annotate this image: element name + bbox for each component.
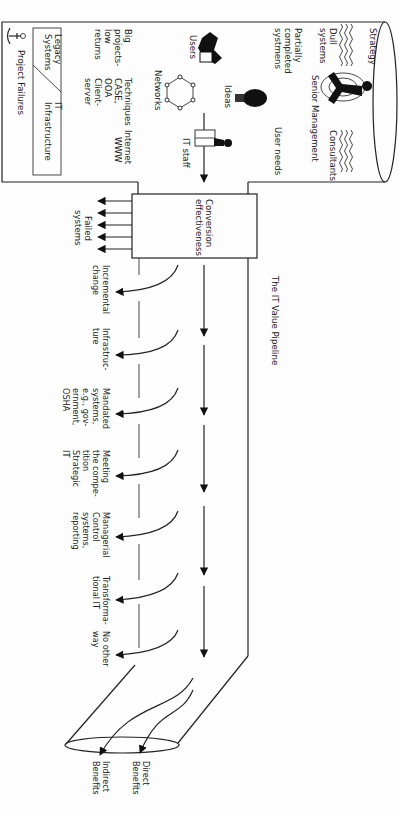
label-dull-systems-2: systems [318,28,328,64]
network-icon [165,75,195,110]
conversion-labels: Conversion effectiveness Failed systems [73,199,214,257]
reservoir-labels: Strategy Dull systems Partially complete… [16,28,378,181]
outlet-3-line-4: IT [61,450,71,458]
outlet-2-line-3: ernment, [71,388,81,425]
pipe-neck [138,182,248,194]
label-project-failures: Project Failures [16,50,26,115]
waves-icon [340,24,353,172]
label-big-projects-1: Big [123,29,133,43]
label-it-infra-2: Infrastructure [43,102,53,161]
label-internet-1: Internet [123,130,133,165]
label-conversion-2: effectiveness [194,199,204,257]
label-senior-management: Senior Management [310,75,320,162]
outlet-3-line-2: tition [81,450,91,471]
outlet-4-line-2: systems, [81,512,91,548]
label-techniques-3: OOA [103,78,113,97]
label-big-projects-4: returns [93,29,103,60]
label-consultants: Consultants [328,130,338,181]
outlet-funnel [65,737,179,753]
outlet-1-line-1: ture [91,328,101,345]
users-icon [198,32,222,64]
label-failed-1: Failed [83,216,93,241]
senior-manager-icon [321,72,372,104]
outlet-arrows [116,265,178,655]
it-staff-icon [195,130,232,147]
label-it-staff: IT staff [181,138,191,169]
label-techniques-4: Client- [93,78,103,106]
label-indirect-2: Benefits [91,761,101,795]
outlet-2-line-0: Mandated [101,388,111,429]
outlet-6-line-0: No other [101,631,111,667]
label-techniques-1: Techniques [123,77,133,126]
failed-systems-arrows [98,201,132,249]
label-indirect-1: Indirect [101,761,111,793]
label-partially-1: Partially [293,28,303,62]
benefit-labels: Direct Benefits Indirect Benefits [91,761,151,795]
outlet-2-line-4: OSHA [61,388,71,412]
label-strategy: Strategy [368,28,378,65]
anchor-icon [8,28,26,44]
label-user-needs: User needs [273,127,283,176]
outlet-3-line-1: the compe- [91,450,101,497]
outlet-3-line-0: Meeting [101,450,111,483]
label-legacy-2: Systems [43,34,53,71]
outlet-0-line-0: Incremental [101,265,111,314]
label-it-infra-1: IT [53,102,63,111]
outlet-labels: Incremental change Infrastruc- ture Mand… [61,265,111,667]
label-internet-2: WWW [113,137,123,163]
pipeline-title: The IT Value Pipeline [270,275,280,365]
outlet-2-line-1: systems, [91,388,101,424]
label-partially-3: systmens [273,28,283,70]
label-techniques-5: server [83,78,93,106]
label-big-projects-3: low [103,29,113,44]
label-failed-2: systems [73,210,83,246]
outlet-6-line-1: way [91,631,101,648]
outlet-4-line-3: reporting [71,512,81,550]
label-legacy-1: Legacy [53,34,63,64]
label-dull-systems-1: Dull [328,28,338,45]
label-big-projects-2: projects- [113,29,123,66]
lightbulb-icon [235,89,267,107]
outlet-1-line-0: Infrastruc- [101,328,111,370]
label-direct-1: Direct [141,761,151,786]
outlet-3-line-3: Strategic [71,450,81,487]
it-value-pipeline-diagram: Strategy Dull systems Partially complete… [0,0,399,816]
label-ideas: Ideas [223,85,233,109]
outlet-4-line-1: Control [91,512,101,542]
outlet-5-line-0: Transforma- [101,575,111,625]
label-conversion-1: Conversion [204,199,214,247]
outlet-2-line-2: e.g., gov- [81,388,91,426]
label-users: Users [188,35,198,60]
outlet-0-line-1: change [91,265,101,295]
label-networks: Networks [153,70,163,111]
label-techniques-2: CASE, [113,78,123,104]
label-partially-2: completed [283,28,293,74]
outlet-4-line-0: Managerial [101,512,111,557]
label-direct-2: Benefits [131,761,141,795]
outlet-5-line-1: tional IT [91,576,101,610]
